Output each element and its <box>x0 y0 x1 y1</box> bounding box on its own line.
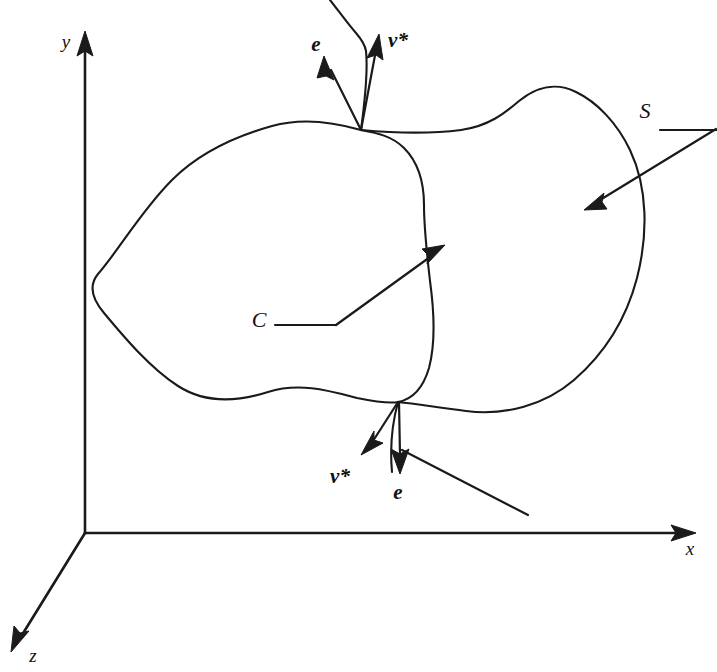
x-axis-label: x <box>685 538 695 559</box>
geometry-figure: y x z e ν* <box>0 0 717 672</box>
surface-S-arrowhead <box>584 193 607 210</box>
tangent-line-bottom <box>402 450 528 515</box>
z-axis-line <box>22 533 85 635</box>
figure-canvas: y x z e ν* <box>0 0 717 672</box>
closed-curve-C <box>93 121 434 402</box>
coordinate-axes: y x z <box>11 31 696 666</box>
tangent-line-group <box>402 450 528 515</box>
surface-S-label: S <box>640 98 651 123</box>
z-axis-label: z <box>28 645 37 666</box>
annotation-surface-S: S <box>584 98 717 210</box>
vector-nu-star-bottom-arrowhead <box>361 431 383 455</box>
vector-e-top-label: e <box>311 32 320 56</box>
vector-e-top-shaft <box>331 70 361 130</box>
annotation-curve-C: C <box>252 245 445 332</box>
y-axis-label: y <box>60 31 71 52</box>
top-vectors-group: e ν* <box>311 28 408 130</box>
vector-e-bottom-label: e <box>393 480 402 504</box>
vector-e-bottom-shaft <box>399 402 400 455</box>
bottom-vectors-group: ν* e <box>330 402 409 504</box>
vector-nu-star-bottom-label: ν* <box>330 464 350 488</box>
curve-C-pointer-shaft <box>336 257 430 325</box>
vector-e-top-arrowhead <box>317 56 334 80</box>
curve-C-label: C <box>252 307 267 332</box>
vector-nu-star-top-label: ν* <box>388 28 408 52</box>
closed-curve-C-group <box>93 121 434 402</box>
surface-S-pointer-shaft <box>600 129 716 200</box>
vector-nu-star-top-shaft <box>361 50 376 130</box>
